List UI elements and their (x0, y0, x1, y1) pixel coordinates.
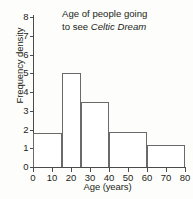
y-tick-2 (30, 130, 34, 131)
x-tick-label-60: 60 (142, 173, 153, 183)
x-tick-label-40: 40 (104, 173, 115, 183)
x-tick-label-50: 50 (123, 173, 134, 183)
y-tick-label-8: 8 (23, 12, 28, 22)
y-tick-5 (30, 73, 34, 74)
x-tick-label-80: 80 (180, 173, 191, 183)
x-tick-label-0: 0 (30, 173, 35, 183)
y-tick-6 (30, 55, 34, 56)
x-tick-label-10: 10 (47, 173, 58, 183)
y-tick-label-6: 6 (23, 50, 28, 60)
y-tick-label-4: 4 (23, 87, 28, 97)
y-tick-8 (30, 17, 34, 18)
y-tick-label-0: 0 (23, 162, 28, 172)
histogram-bar (147, 145, 185, 168)
y-tick-3 (30, 111, 34, 112)
y-tick-label-3: 3 (23, 106, 28, 116)
histogram-bar (33, 133, 62, 167)
y-tick-label-1: 1 (23, 144, 28, 154)
x-tick-label-30: 30 (85, 173, 96, 183)
y-tick-label-2: 2 (23, 125, 28, 135)
histogram-bar (62, 73, 81, 167)
x-tick-label-70: 70 (161, 173, 172, 183)
y-tick-label-5: 5 (23, 69, 28, 79)
y-tick-7 (30, 36, 34, 37)
y-tick-4 (30, 92, 34, 93)
x-tick-label-20: 20 (66, 173, 77, 183)
plot-area: 012345678 01020304050607080 (33, 17, 185, 167)
histogram-figure: Frequency density Age (years) Age of peo… (0, 0, 193, 199)
histogram-bar (81, 102, 110, 167)
y-tick-label-7: 7 (23, 31, 28, 41)
histogram-bar (109, 132, 147, 167)
